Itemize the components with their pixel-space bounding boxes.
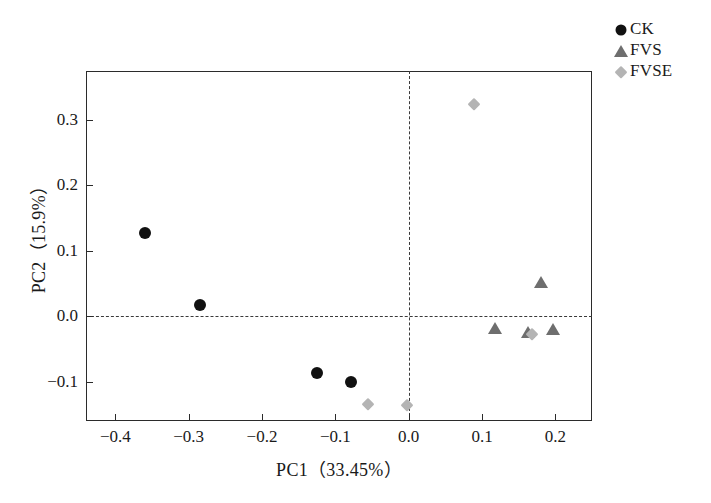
x-tick (189, 414, 190, 421)
reference-line-vertical (409, 71, 410, 421)
data-point-fvse (468, 98, 480, 110)
legend-circle-icon (612, 20, 630, 38)
y-axis-title: PC2（15.9%） (24, 105, 50, 365)
legend-label: FVS (630, 41, 662, 59)
legend-diamond-icon (612, 62, 630, 80)
x-tick (335, 414, 336, 421)
x-tick-label: 0.2 (545, 427, 566, 447)
pca-scatter-figure: CKFVSFVSE 0.30.20.10.0−0.1 −0.4−0.3−0.2−… (0, 0, 711, 503)
data-point-fvse (362, 398, 374, 410)
data-point-fvs (534, 276, 548, 288)
x-tick (262, 414, 263, 421)
x-tick-label: −0.1 (320, 427, 351, 447)
x-tick (482, 414, 483, 421)
reference-line-horizontal (86, 316, 592, 317)
legend: CKFVSFVSE (612, 18, 708, 81)
y-tick (86, 185, 93, 186)
y-tick (86, 316, 93, 317)
x-tick (115, 414, 116, 421)
legend-item-fvse[interactable]: FVSE (612, 60, 708, 81)
y-tick-label: 0.3 (57, 110, 78, 130)
legend-label: FVSE (630, 62, 672, 80)
data-point-ck (139, 227, 151, 239)
y-tick-label: 0.2 (57, 175, 78, 195)
data-point-ck (311, 367, 323, 379)
legend-label: CK (630, 20, 654, 38)
data-point-fvs (488, 322, 502, 334)
data-point-ck (194, 299, 206, 311)
y-tick (86, 251, 93, 252)
data-point-ck (345, 376, 357, 388)
x-tick-label: −0.3 (173, 427, 204, 447)
x-tick-label: 0.1 (471, 427, 492, 447)
legend-item-fvs[interactable]: FVS (612, 39, 708, 60)
y-tick-label: 0.0 (57, 306, 78, 326)
x-tick-label: 0.0 (398, 427, 419, 447)
x-tick-label: −0.4 (100, 427, 131, 447)
y-tick-label: 0.1 (57, 241, 78, 261)
data-point-fvse (401, 399, 413, 411)
x-axis-title: PC1（33.45%） (86, 455, 592, 481)
legend-triangle-icon (612, 41, 630, 59)
plot-area (86, 71, 592, 421)
x-tick (409, 414, 410, 421)
x-tick-label: −0.2 (247, 427, 278, 447)
data-point-fvs (546, 323, 560, 335)
y-tick (86, 120, 93, 121)
y-tick-label: −0.1 (47, 372, 78, 392)
y-tick (86, 382, 93, 383)
x-tick (555, 414, 556, 421)
legend-item-ck[interactable]: CK (612, 18, 708, 39)
